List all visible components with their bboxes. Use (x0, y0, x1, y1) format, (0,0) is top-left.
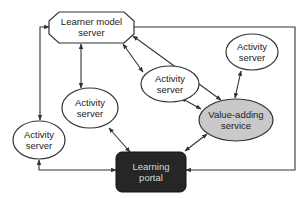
activity-server-top-right-node (226, 34, 278, 70)
activity-server-center-left-node (62, 88, 118, 128)
architecture-diagram (0, 0, 305, 198)
edge-learner-to-activity-left (40, 27, 49, 120)
activity-server-left-node (13, 121, 65, 159)
edge-activity-top-right-to-value-adding (235, 71, 241, 98)
nodes (13, 12, 278, 192)
learner-model-server-node (49, 12, 134, 43)
edge-learner-to-activity-middle (123, 44, 143, 72)
value-adding-service-node (199, 99, 273, 141)
edge-activity-center-left-to-portal (109, 128, 130, 152)
learning-portal-node (116, 152, 186, 192)
edge-value-adding-to-portal (185, 134, 207, 151)
activity-server-middle-node (141, 66, 199, 102)
edge-activity-left-to-portal (39, 160, 116, 170)
